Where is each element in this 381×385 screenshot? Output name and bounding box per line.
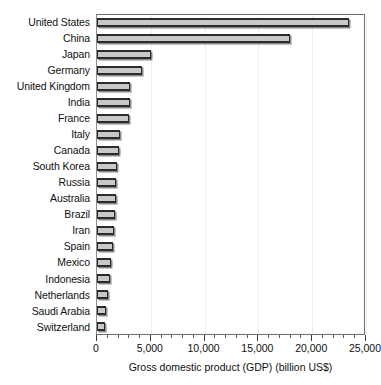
bar-series	[97, 15, 364, 334]
category-label: Indonesia	[0, 271, 93, 287]
bar-row	[97, 143, 364, 159]
category-label: Germany	[0, 62, 93, 78]
category-label: Japan	[0, 46, 93, 62]
category-label: Iran	[0, 223, 93, 239]
bar-row	[97, 254, 364, 270]
bar	[97, 34, 290, 43]
bar	[97, 130, 120, 139]
bar	[97, 306, 106, 315]
bar-row	[97, 206, 364, 222]
bar	[97, 50, 151, 59]
category-axis: United StatesChinaJapanGermanyUnited Kin…	[0, 14, 93, 335]
bar	[97, 98, 130, 107]
bar-row	[97, 63, 364, 79]
bar	[97, 146, 119, 155]
minor-tick	[182, 335, 183, 338]
minor-tick	[107, 335, 108, 338]
bar-row	[97, 222, 364, 238]
bar	[97, 242, 113, 251]
category-label: Canada	[0, 142, 93, 158]
category-label: Spain	[0, 239, 93, 255]
minor-tick	[118, 335, 119, 338]
major-tick	[204, 335, 205, 341]
gridline	[366, 15, 367, 334]
minor-tick	[290, 335, 291, 338]
bar	[97, 322, 105, 331]
minor-tick	[300, 335, 301, 338]
category-label: Brazil	[0, 207, 93, 223]
bar-row	[97, 302, 364, 318]
bar-row	[97, 127, 364, 143]
x-axis-title: Gross domestic product (GDP) (billion US…	[96, 362, 365, 373]
value-tick-label: 5,000	[137, 343, 163, 354]
value-tick-label: 25,000	[349, 343, 381, 354]
minor-tick	[268, 335, 269, 338]
bar-row	[97, 79, 364, 95]
category-label: Switzerland	[0, 319, 93, 335]
bar	[97, 274, 110, 283]
minor-tick	[279, 335, 280, 338]
minor-tick	[247, 335, 248, 338]
bar	[97, 178, 116, 187]
bar	[97, 290, 108, 299]
category-label: South Korea	[0, 158, 93, 174]
category-label: Australia	[0, 191, 93, 207]
minor-tick	[139, 335, 140, 338]
value-tick-label: 0	[93, 343, 99, 354]
bar-row	[97, 95, 364, 111]
minor-tick	[225, 335, 226, 338]
minor-tick	[128, 335, 129, 338]
bar-row	[97, 159, 364, 175]
minor-tick	[236, 335, 237, 338]
category-label: Russia	[0, 174, 93, 190]
major-tick	[257, 335, 258, 341]
category-label: India	[0, 94, 93, 110]
major-tick	[150, 335, 151, 341]
minor-tick	[322, 335, 323, 338]
category-label: Netherlands	[0, 287, 93, 303]
bar-row	[97, 286, 364, 302]
major-tick	[96, 335, 97, 341]
bar	[97, 82, 130, 91]
value-tick-label: 15,000	[241, 343, 273, 354]
category-label: Mexico	[0, 255, 93, 271]
value-tick-label: 20,000	[295, 343, 327, 354]
bar-row	[97, 15, 364, 31]
bar-row	[97, 175, 364, 191]
minor-tick	[214, 335, 215, 338]
category-label: United States	[0, 14, 93, 30]
category-label: France	[0, 110, 93, 126]
bar	[97, 114, 129, 123]
bar	[97, 162, 117, 171]
bar-row	[97, 111, 364, 127]
category-label: Saudi Arabia	[0, 303, 93, 319]
bar-row	[97, 270, 364, 286]
bar	[97, 226, 114, 235]
bar	[97, 210, 115, 219]
bar-row	[97, 318, 364, 334]
minor-tick	[333, 335, 334, 338]
plot-area	[96, 14, 365, 335]
value-tick-label: 10,000	[188, 343, 220, 354]
bar	[97, 18, 349, 27]
bar-row	[97, 190, 364, 206]
bar	[97, 258, 111, 267]
major-tick	[365, 335, 366, 341]
major-tick	[311, 335, 312, 341]
category-label: Italy	[0, 126, 93, 142]
value-axis-tick-labels: 05,00010,00015,00020,00025,000	[0, 343, 374, 357]
category-label: China	[0, 30, 93, 46]
minor-tick	[161, 335, 162, 338]
minor-tick	[171, 335, 172, 338]
bar	[97, 194, 116, 203]
category-label: United Kingdom	[0, 78, 93, 94]
minor-tick	[193, 335, 194, 338]
minor-tick	[343, 335, 344, 338]
bar-row	[97, 31, 364, 47]
bar-row	[97, 47, 364, 63]
bar-row	[97, 238, 364, 254]
minor-tick	[354, 335, 355, 338]
bar	[97, 66, 142, 75]
